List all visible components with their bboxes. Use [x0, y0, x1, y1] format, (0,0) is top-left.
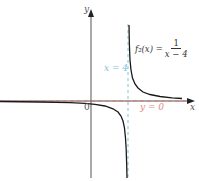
graph-canvas — [0, 0, 199, 181]
curve-left-branch — [0, 102, 127, 179]
vertical-asymptote-label: x = 4 — [104, 64, 128, 73]
function-denominator: x − 4 — [165, 49, 188, 59]
horizontal-asymptote-label: y = 0 — [140, 103, 164, 112]
y-axis-label: y — [84, 5, 89, 14]
function-lhs: f₂(x) = — [135, 45, 163, 54]
function-numerator: 1 — [171, 39, 180, 49]
x-axis-label: x — [190, 103, 195, 112]
curve-right-branch — [129, 25, 182, 99]
function-fraction: 1 x − 4 — [165, 39, 188, 60]
origin-label: 0 — [84, 103, 90, 112]
function-label: f₂(x) = 1 x − 4 — [135, 39, 188, 60]
